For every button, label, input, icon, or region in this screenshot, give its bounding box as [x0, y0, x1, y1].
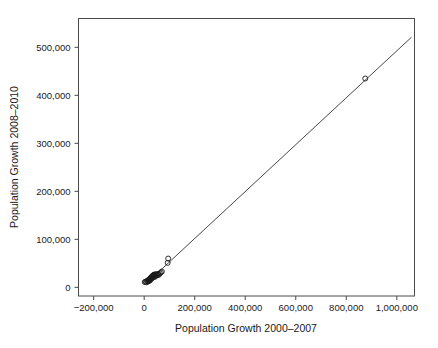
x-tick-label: 400,000 [228, 302, 262, 313]
y-tick-label: 200,000 [36, 186, 70, 197]
x-tick-label: −200,000 [74, 302, 114, 313]
scatter-plot-figure: −200,0000200,000400,000600,000800,0001,0… [0, 0, 438, 348]
y-tick-label: 500,000 [36, 42, 70, 53]
y-tick-label: 300,000 [36, 138, 70, 149]
x-tick-label: 600,000 [279, 302, 313, 313]
x-tick-label: 800,000 [329, 302, 363, 313]
x-tick-label: 200,000 [178, 302, 212, 313]
y-tick-label: 400,000 [36, 90, 70, 101]
y-tick-label: 0 [65, 282, 70, 293]
chart-canvas: −200,0000200,000400,000600,000800,0001,0… [0, 0, 438, 348]
x-tick-label: 0 [142, 302, 147, 313]
y-tick-label: 100,000 [36, 234, 70, 245]
x-tick-label: 1,000,000 [376, 302, 418, 313]
y-axis-title: Population Growth 2008–2010 [8, 86, 20, 228]
x-axis-title: Population Growth 2000–2007 [175, 322, 317, 334]
